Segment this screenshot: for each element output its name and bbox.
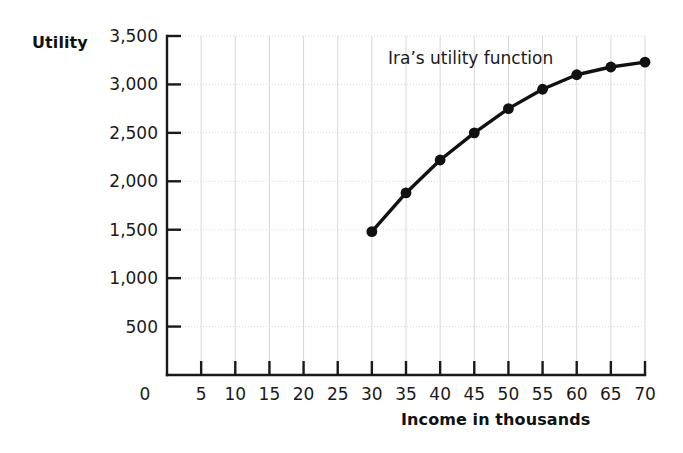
y-tick-label: 3,500 xyxy=(60,26,158,46)
x-tick-label: 10 xyxy=(224,384,246,404)
y-tick-label: 1,500 xyxy=(60,220,158,240)
vertical-gridlines xyxy=(201,36,645,375)
x-tick-label: 20 xyxy=(293,384,315,404)
x-tick-label: 70 xyxy=(634,384,656,404)
x-tick-label: 55 xyxy=(532,384,554,404)
series-annotation-label: Ira’s utility function xyxy=(388,48,553,68)
utility-function-chart: Utility Income in thousands Ira’s utilit… xyxy=(0,0,683,453)
x-tick-label: 65 xyxy=(600,384,622,404)
x-tick-label: 5 xyxy=(196,384,207,404)
x-tick-label: 0 xyxy=(140,384,151,404)
y-tick-label: 3,000 xyxy=(60,74,158,94)
x-tick-label: 15 xyxy=(259,384,281,404)
y-tick-label: 2,500 xyxy=(60,123,158,143)
y-axis-ticks xyxy=(167,36,181,327)
x-tick-label: 50 xyxy=(498,384,520,404)
x-tick-label: 45 xyxy=(463,384,485,404)
x-tick-label: 25 xyxy=(327,384,349,404)
x-axis-ticks xyxy=(201,361,645,375)
x-tick-label: 60 xyxy=(566,384,588,404)
y-tick-label: 2,000 xyxy=(60,171,158,191)
x-tick-label: 40 xyxy=(429,384,451,404)
x-tick-label: 30 xyxy=(361,384,383,404)
x-tick-label: 35 xyxy=(395,384,417,404)
y-tick-label: 1,000 xyxy=(60,268,158,288)
x-axis-title: Income in thousands xyxy=(401,410,590,429)
y-tick-label: 500 xyxy=(60,317,158,337)
